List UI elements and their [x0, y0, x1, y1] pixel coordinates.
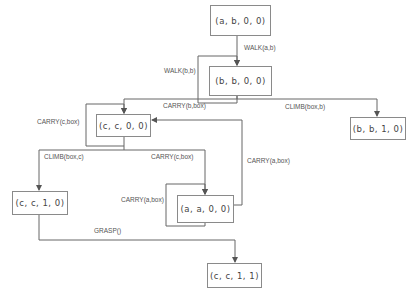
- state-node-c-c-1-0: (c, c, 1, 0): [12, 191, 68, 215]
- edge-layer: [0, 0, 408, 297]
- edge-label-carry-a-box: CARRY(a,box): [247, 157, 290, 164]
- state-node-c-c-0-0: (c, c, 0, 0): [96, 114, 151, 137]
- edge-label-walk-b-b: WALK(b,b): [164, 67, 196, 74]
- state-node-b-b-1-0: (b, b, 1, 0): [350, 117, 406, 140]
- edge-label-carry-c-box: CARRY(c,box): [151, 153, 194, 160]
- edge-label-carry-b-box: CARRY(b,box): [163, 102, 206, 109]
- edge-label-carry-c-box-loop: CARRY(c,box): [37, 118, 80, 125]
- edge-label-carry-a-box-loop: CARRY(a,box): [121, 196, 164, 203]
- state-node-a-b-0-0: (a, b, 0, 0): [210, 5, 271, 36]
- state-node-b-b-0-0: (b, b, 0, 0): [209, 66, 272, 96]
- state-node-c-c-1-1: (c, c, 1, 1): [207, 263, 262, 288]
- edge-label-climb-box-b: CLIMB(box,b): [285, 103, 325, 110]
- edge-label-walk-a-b: WALK(a,b): [244, 44, 276, 51]
- state-node-a-a-0-0: (a, a, 0, 0): [177, 195, 234, 223]
- edge-label-climb-box-c: CLIMB(box,c): [44, 153, 84, 160]
- edge-label-grasp: GRASP(): [94, 227, 121, 234]
